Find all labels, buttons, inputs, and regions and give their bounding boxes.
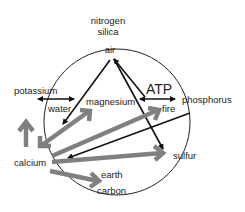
label-silica: silica — [97, 26, 119, 37]
gray-arrows — [19, 108, 163, 187]
label-fire: fire — [162, 103, 175, 114]
label-sulfur: sulfur — [173, 150, 196, 161]
elements-cycle-diagram: nitrogen silica air potassium water magn… — [0, 0, 245, 212]
label-air: air — [105, 44, 116, 55]
label-earth: earth — [101, 169, 123, 180]
label-calcium: calcium — [14, 157, 46, 168]
label-nitrogen: nitrogen — [91, 15, 125, 26]
label-water: water — [47, 103, 71, 114]
label-magnesium: magnesium — [86, 96, 135, 107]
label-atp: ATP — [146, 81, 172, 97]
label-potassium: potassium — [14, 85, 57, 96]
label-phosphorus: phosphorus — [182, 94, 232, 105]
label-carbon: carbon — [97, 185, 126, 196]
